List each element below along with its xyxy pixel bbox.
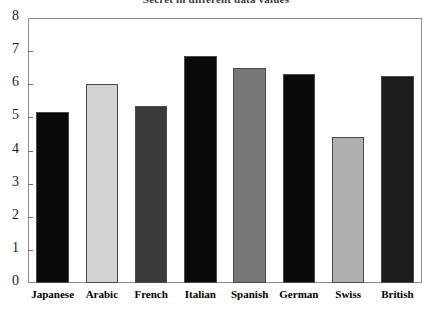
y-axis-tick-label: 7 bbox=[12, 42, 19, 56]
y-axis-tick-label: 4 bbox=[12, 142, 19, 156]
x-axis-category-label: Arabic bbox=[77, 288, 126, 301]
bar bbox=[381, 76, 414, 283]
y-axis-tick-label: 8 bbox=[12, 9, 19, 23]
bar bbox=[36, 112, 69, 283]
y-axis-tick-label: 1 bbox=[12, 241, 19, 255]
bar bbox=[233, 68, 266, 283]
x-axis-category-label: British bbox=[373, 288, 422, 301]
y-axis: 876543210 bbox=[0, 0, 28, 313]
chart-title: Secret in different data values bbox=[0, 0, 432, 5]
x-axis-category-label: German bbox=[274, 288, 323, 301]
x-axis-category-label: Japanese bbox=[28, 288, 77, 301]
x-axis-category-label: French bbox=[127, 288, 176, 301]
y-axis-tick-label: 6 bbox=[12, 75, 19, 89]
x-axis-category-label: Spanish bbox=[225, 288, 274, 301]
x-axis-category-label: Italian bbox=[176, 288, 225, 301]
bar bbox=[86, 84, 119, 283]
x-axis-category-labels: JapaneseArabicFrenchItalianSpanishGerman… bbox=[28, 288, 422, 308]
bar bbox=[332, 137, 365, 283]
y-axis-tick-label: 3 bbox=[12, 175, 19, 189]
bar bbox=[135, 106, 168, 283]
bar bbox=[184, 56, 217, 283]
x-axis-category-label: Swiss bbox=[324, 288, 373, 301]
bar bbox=[283, 74, 316, 283]
bar-chart: Secret in different data values 87654321… bbox=[0, 0, 432, 313]
bars-layer bbox=[28, 18, 422, 283]
y-axis-tick-label: 5 bbox=[12, 108, 19, 122]
y-axis-tick-label: 2 bbox=[12, 208, 19, 222]
y-axis-tick-label: 0 bbox=[12, 274, 19, 288]
